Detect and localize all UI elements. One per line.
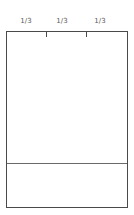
segment-label-2: 1/3 — [52, 17, 72, 25]
panel-frame — [6, 31, 128, 208]
segment-label-3: 1/3 — [90, 17, 110, 25]
horizontal-divider — [7, 163, 127, 164]
segment-label-1: 1/3 — [16, 17, 36, 25]
diagram-canvas: 1/3 1/3 1/3 — [0, 0, 134, 215]
division-tick-2 — [86, 32, 87, 37]
division-tick-1 — [46, 32, 47, 37]
